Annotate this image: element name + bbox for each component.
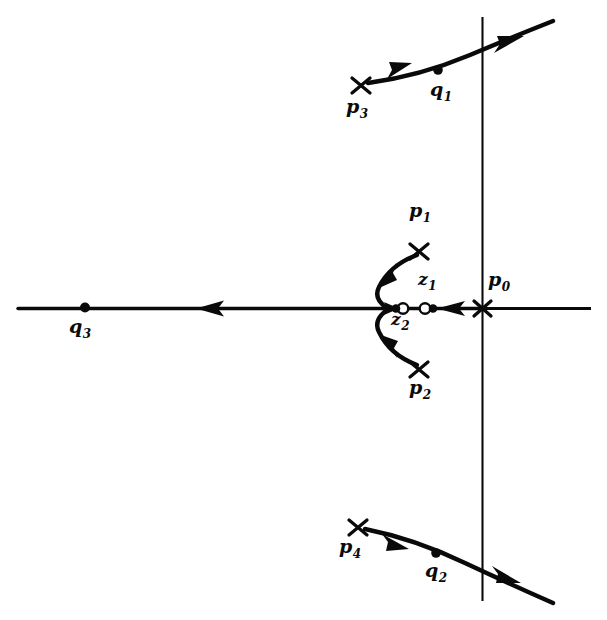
locus-dot-right-of-z1 — [429, 304, 438, 313]
label-q2: q2 — [425, 561, 447, 580]
upper-outer-branch — [368, 21, 553, 83]
lower-branch-arrow-2 — [492, 566, 521, 583]
lower-arc-arrow — [381, 335, 398, 358]
label-p4: p4 — [339, 537, 361, 556]
lower-outer-branch — [365, 529, 553, 603]
label-z2: z2 — [391, 311, 409, 328]
label-p0: p0 — [488, 270, 510, 289]
upper-breakaway-arc — [377, 255, 417, 308]
label-p2: p2 — [409, 378, 431, 397]
label-p1: p1 — [409, 201, 431, 220]
upper-arc-arrow — [379, 263, 397, 288]
pole-marker-p1 — [410, 244, 428, 259]
root-locus-plot: .axis-line { stroke: #0a0a0a; fill: none… — [0, 0, 607, 620]
locus-point-q1 — [433, 65, 443, 75]
root-locus-figure: .axis-line { stroke: #0a0a0a; fill: none… — [0, 0, 607, 620]
pole-marker-p3 — [352, 78, 370, 93]
locus-point-q2 — [431, 548, 441, 558]
label-p3: p3 — [346, 97, 368, 116]
locus-point-q3 — [80, 303, 90, 313]
label-z1: z1 — [418, 271, 436, 288]
label-q1: q1 — [430, 80, 452, 99]
label-q3: q3 — [69, 317, 91, 336]
upper-branch-curve — [368, 21, 553, 83]
lower-branch-curve — [365, 529, 553, 603]
